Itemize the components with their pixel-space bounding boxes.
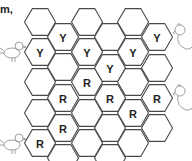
hex-label: R (129, 108, 137, 120)
chick-icon (0, 42, 26, 62)
hex-label: Y (106, 63, 114, 75)
hex-label: Y (129, 47, 137, 59)
chick-icon (0, 134, 26, 154)
hex-puzzle: m, YRYRRYRYRYRYR (0, 0, 192, 161)
hex-label: R (36, 138, 44, 150)
hex-label: Y (59, 32, 67, 44)
hex-cell: Y (142, 24, 173, 51)
hex-label: R (59, 93, 67, 105)
hex-cell (142, 115, 173, 142)
hex-label: R (59, 123, 67, 135)
hex-label: R (153, 93, 161, 105)
hen-icon (173, 24, 192, 50)
hex-label: R (106, 93, 114, 105)
hex-grid: YRYRRYRYRYRYR (0, 0, 192, 161)
hex-label: Y (153, 32, 161, 44)
hex-label: Y (83, 47, 91, 59)
hex-shape (142, 115, 173, 142)
hen-icon (173, 85, 192, 111)
hex-cell: R (142, 85, 173, 112)
hex-label: R (83, 77, 91, 89)
hex-label: Y (36, 47, 44, 59)
